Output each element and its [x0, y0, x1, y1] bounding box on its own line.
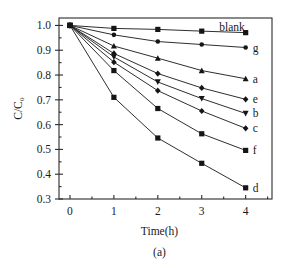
x-tick-label: 3: [199, 205, 205, 217]
series-label-c: c: [253, 122, 258, 134]
y-tick-label: 0.3: [37, 193, 52, 205]
y-tick-label: 0.8: [37, 69, 52, 81]
series-c: [67, 22, 248, 131]
series-label-f: f: [253, 144, 257, 156]
data-point: [111, 43, 117, 49]
data-point: [199, 85, 205, 91]
x-axis-title: Time(h): [141, 225, 178, 238]
figure-panel: 012340.30.40.50.60.70.80.91.0blankgaebcf…: [0, 0, 301, 270]
series-label-a: a: [253, 73, 258, 85]
y-tick-label: 0.9: [37, 44, 52, 56]
series-label-g: g: [253, 42, 259, 55]
data-point: [199, 96, 205, 102]
data-point: [243, 125, 249, 131]
x-tick-label: 4: [243, 205, 249, 217]
data-point: [199, 42, 204, 47]
data-point: [67, 23, 72, 28]
y-tick-label: 0.5: [37, 143, 52, 155]
y-tick-label: 1.0: [37, 19, 52, 31]
data-point: [243, 96, 249, 102]
plot-frame: [59, 18, 272, 199]
chart-text-layer: 012340.30.40.50.60.70.80.91.0blankgaebcf…: [12, 19, 259, 259]
data-point: [243, 111, 249, 117]
figure-caption: (a): [153, 246, 166, 259]
series-label-d: d: [253, 182, 259, 194]
x-tick-label: 2: [155, 205, 161, 217]
data-point: [243, 45, 248, 50]
data-point: [155, 27, 160, 32]
data-point: [155, 88, 161, 94]
y-axis-title: C/C₀: [12, 97, 24, 120]
series-label-blank: blank: [219, 21, 245, 33]
data-point: [112, 33, 117, 38]
data-point: [156, 39, 161, 44]
series-label-e: e: [253, 93, 258, 105]
data-point: [111, 95, 116, 100]
data-point: [111, 26, 116, 31]
series-label-b: b: [253, 107, 259, 119]
data-point: [243, 148, 248, 153]
x-tick-label: 0: [67, 205, 73, 217]
chart-series-layer: [67, 22, 249, 190]
y-tick-label: 0.4: [37, 168, 52, 180]
data-point: [155, 135, 160, 140]
data-point: [199, 108, 205, 114]
y-tick-label: 0.6: [37, 119, 52, 131]
data-point: [155, 79, 161, 85]
y-tick-label: 0.7: [37, 94, 52, 106]
chart-axes: [55, 18, 272, 199]
data-point: [199, 29, 204, 34]
x-tick-label: 1: [111, 205, 117, 217]
data-point: [111, 68, 116, 73]
data-point: [243, 185, 248, 190]
data-point: [155, 70, 161, 76]
data-point: [199, 131, 204, 136]
data-point: [155, 106, 160, 111]
data-point: [199, 161, 204, 166]
line-chart: 012340.30.40.50.60.70.80.91.0blankgaebcf…: [0, 0, 301, 270]
